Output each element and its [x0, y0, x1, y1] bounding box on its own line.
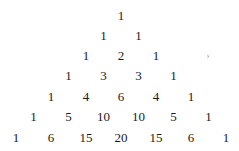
triangle-cell: 6	[188, 131, 195, 145]
triangle-cell: 1	[118, 9, 125, 23]
triangle-cell: 5	[65, 110, 72, 124]
triangle-cell: 3	[135, 69, 142, 83]
triangle-cell: 1	[205, 110, 212, 124]
triangle-cell: 1	[83, 49, 90, 63]
triangle-cell: 3	[100, 69, 107, 83]
triangle-cell: 15	[150, 131, 163, 145]
triangle-cell: 1	[30, 110, 37, 124]
triangle-cell: 2	[118, 49, 125, 63]
triangle-cell: 1	[48, 90, 55, 104]
triangle-cell: 1	[188, 90, 195, 104]
triangle-cell: 1	[135, 29, 142, 43]
triangle-cell: 4	[153, 90, 160, 104]
triangle-cell: 5	[170, 110, 177, 124]
triangle-cell: 1	[170, 69, 177, 83]
triangle-cell: 1	[65, 69, 72, 83]
triangle-cell: 6	[48, 131, 55, 145]
triangle-cell: 1	[13, 131, 20, 145]
stray-mark: ›	[207, 50, 210, 60]
triangle-cell: 1	[153, 49, 160, 63]
triangle-cell: 10	[132, 110, 145, 124]
triangle-cell: 6	[118, 90, 125, 104]
triangle-cell: 4	[83, 90, 90, 104]
triangle-cell: 1	[100, 29, 107, 43]
triangle-cell: 20	[115, 131, 128, 145]
triangle-cell: 10	[97, 110, 110, 124]
triangle-cell: 1	[223, 131, 230, 145]
triangle-cell: 15	[80, 131, 93, 145]
